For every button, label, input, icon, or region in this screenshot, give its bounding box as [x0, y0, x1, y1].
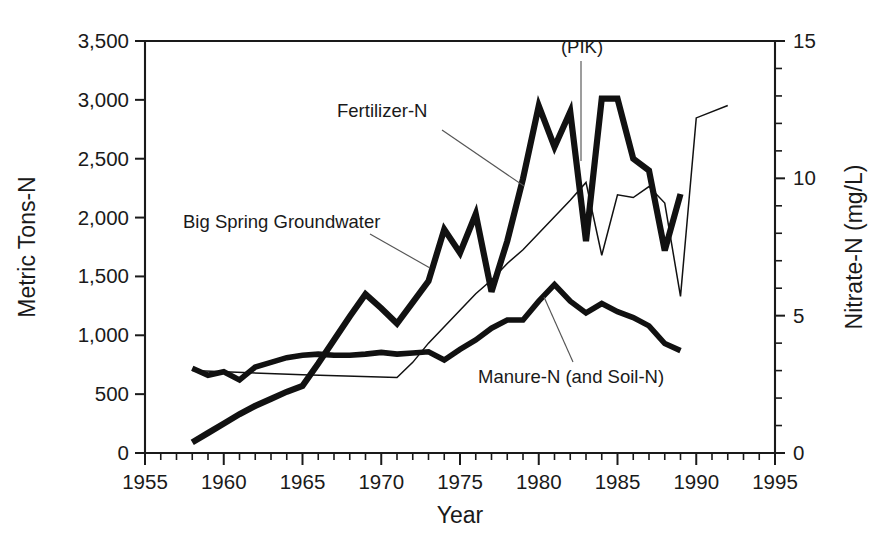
leader-line-manure [544, 297, 573, 362]
annotation-pik: (PIK) [561, 36, 603, 57]
series-label-fertilizer: Fertilizer-N [337, 100, 427, 121]
y-tick-label: 1,500 [78, 264, 129, 287]
x-tick-label: 1955 [122, 470, 168, 493]
x-tick-label: 1960 [201, 470, 247, 493]
y2-tick-label: 0 [793, 441, 804, 464]
y-tick-label: 2,000 [78, 206, 129, 229]
y-tick-label: 1,000 [78, 323, 129, 346]
x-tick-label: 1975 [437, 470, 483, 493]
series-line-fertilizer-n [192, 99, 680, 443]
series-label-manure: Manure-N (and Soil-N) [478, 366, 664, 387]
bottom-axis-ticks: 195519601965197019751980198519901995 [122, 453, 798, 493]
y-tick-label: 2,500 [78, 147, 129, 170]
series-line-big-spring-groundwater [192, 106, 728, 378]
y2-tick-label: 15 [793, 29, 816, 52]
leader-line-fertilizer [442, 130, 524, 186]
data-series-group [192, 99, 728, 443]
x-tick-label: 1995 [752, 470, 798, 493]
x-tick-label: 1985 [595, 470, 641, 493]
y2-tick-label: 10 [793, 166, 816, 189]
y-tick-label: 500 [95, 382, 129, 405]
right-axis-ticks: 051015 [775, 29, 816, 464]
figure-container: 05001,0001,5002,0002,5003,0003,500 05101… [0, 0, 890, 551]
leader-line-groundwater [370, 234, 430, 268]
x-tick-label: 1980 [516, 470, 562, 493]
x-axis-title: Year [437, 502, 484, 528]
y-tick-label: 3,000 [78, 88, 129, 111]
x-tick-label: 1970 [358, 470, 404, 493]
y-axis-title: Metric Tons-N [14, 176, 40, 317]
y-tick-label: 0 [118, 441, 129, 464]
y2-axis-title: Nitrate-N (mg/L) [841, 165, 867, 330]
y2-tick-label: 5 [793, 304, 804, 327]
nitrogen-chart: 05001,0001,5002,0002,5003,0003,500 05101… [0, 0, 890, 551]
x-tick-label: 1965 [280, 470, 326, 493]
x-tick-label: 1990 [673, 470, 719, 493]
left-axis-ticks: 05001,0001,5002,0002,5003,0003,500 [78, 29, 145, 464]
y-tick-label: 3,500 [78, 29, 129, 52]
series-label-groundwater: Big Spring Groundwater [183, 211, 380, 232]
